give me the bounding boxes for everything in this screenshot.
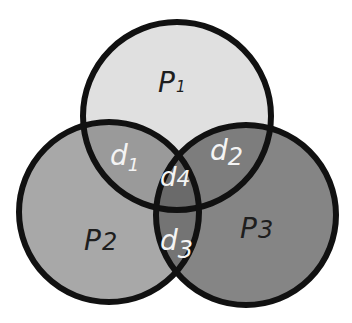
venn-diagram: P1 P2 P3 d1 d2 d3 d4 bbox=[0, 0, 352, 323]
label-p2: P2 bbox=[84, 224, 117, 257]
label-d4: d4 bbox=[160, 162, 191, 192]
label-p3: P3 bbox=[240, 212, 273, 245]
